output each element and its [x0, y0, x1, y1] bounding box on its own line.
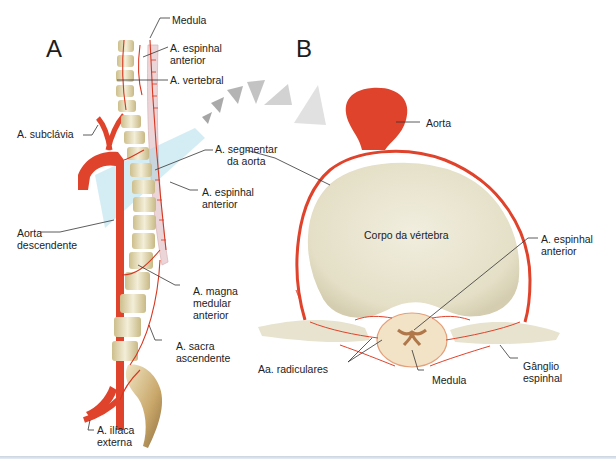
label-espinhal-anterior-top: A. espinhal anterior [170, 42, 222, 66]
aorta-cross-section [346, 88, 408, 150]
label-radiculares: Aa. radiculares [258, 363, 328, 375]
label-vertebral: A. vertebral [170, 74, 224, 86]
spinal-blood-supply-figure: A B Medula A. espinhal anterior A. verte… [0, 0, 616, 467]
label-medula-a: Medula [172, 14, 206, 26]
panel-b-illustration [258, 88, 560, 367]
spinal-cord-section [377, 313, 447, 367]
subclavian-shape [98, 115, 124, 150]
anatomy-illustration [0, 0, 616, 467]
label-sacra-ascendente: A. sacra ascendente [176, 340, 230, 364]
label-aorta-b: Aorta [426, 117, 451, 129]
panel-a-illustration [78, 40, 205, 448]
label-aorta-descendente: Aorta descendente [17, 227, 77, 251]
label-magna-medular: A. magna medular anterior [193, 285, 238, 321]
panel-b-letter: B [296, 35, 312, 63]
label-subclavia: A. subclávia [17, 128, 74, 140]
label-segmentar: A. segmentar da aorta [215, 143, 277, 167]
direction-chevrons [202, 80, 326, 125]
label-ganglio-espinhal: Gânglio espinhal [523, 360, 562, 384]
label-iliaca-externa: A. ilíaca externa [97, 424, 134, 448]
label-espinhal-anterior-mid: A. espinhal anterior [202, 186, 254, 210]
panel-a-letter: A [46, 35, 62, 63]
bottom-divider [0, 456, 616, 459]
label-corpo-vertebra: Corpo da vértebra [364, 229, 449, 241]
ganglion-right [450, 322, 560, 344]
label-medula-b: Medula [432, 374, 466, 386]
label-espinhal-anterior-b: A. espinhal anterior [541, 233, 593, 257]
